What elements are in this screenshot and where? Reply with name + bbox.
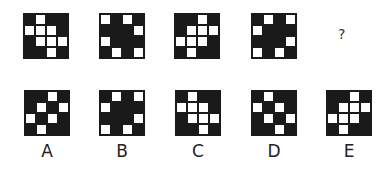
black-cell <box>274 113 285 124</box>
white-cell <box>133 25 144 36</box>
black-cell <box>133 102 144 113</box>
white-cell <box>187 113 198 124</box>
white-cell <box>58 102 69 113</box>
option-c-label: C <box>175 141 221 161</box>
black-cell <box>175 14 186 25</box>
black-cell <box>274 14 285 25</box>
white-cell <box>100 36 111 47</box>
black-cell <box>187 124 198 135</box>
black-cell <box>175 47 186 58</box>
white-cell <box>338 113 349 124</box>
white-cell <box>122 14 133 25</box>
black-cell <box>327 102 338 113</box>
white-cell <box>197 14 208 25</box>
black-cell <box>209 124 220 135</box>
white-cell <box>133 113 144 124</box>
black-cell <box>100 91 111 102</box>
black-cell <box>25 102 36 113</box>
black-cell <box>197 47 208 58</box>
black-cell <box>176 91 187 102</box>
black-cell <box>111 113 122 124</box>
black-cell <box>360 91 371 102</box>
white-cell <box>24 25 35 36</box>
black-cell <box>25 124 36 135</box>
white-cell <box>285 14 296 25</box>
black-cell <box>122 47 133 58</box>
sequence-pattern-4 <box>251 13 297 59</box>
black-cell <box>111 36 122 47</box>
white-cell <box>133 47 144 58</box>
black-cell <box>133 14 144 25</box>
white-cell <box>100 124 111 135</box>
white-cell <box>252 47 263 58</box>
black-cell <box>35 47 46 58</box>
black-cell <box>122 36 133 47</box>
white-cell <box>176 102 187 113</box>
black-cell <box>176 124 187 135</box>
black-cell <box>58 124 69 135</box>
black-cell <box>209 91 220 102</box>
white-cell <box>198 124 209 135</box>
white-cell <box>111 91 122 102</box>
black-cell <box>176 113 187 124</box>
black-cell <box>111 124 122 135</box>
black-cell <box>263 36 274 47</box>
white-cell <box>327 113 338 124</box>
black-cell <box>263 47 274 58</box>
black-cell <box>47 102 58 113</box>
black-cell <box>100 113 111 124</box>
option-e-label: E <box>326 141 372 161</box>
black-cell <box>122 113 133 124</box>
white-cell <box>263 14 274 25</box>
white-cell <box>198 113 209 124</box>
black-cell <box>100 47 111 58</box>
black-cell <box>252 124 263 135</box>
black-cell <box>208 47 219 58</box>
white-cell <box>35 14 46 25</box>
black-cell <box>285 47 296 58</box>
black-cell <box>274 91 285 102</box>
white-cell <box>274 124 285 135</box>
white-cell <box>100 102 111 113</box>
option-a-pattern[interactable] <box>24 90 70 136</box>
black-cell <box>285 124 296 135</box>
white-cell <box>252 25 263 36</box>
white-cell <box>274 102 285 113</box>
black-cell <box>25 91 36 102</box>
black-cell <box>58 113 69 124</box>
black-cell <box>263 102 274 113</box>
black-cell <box>209 102 220 113</box>
white-cell <box>111 47 122 58</box>
white-cell <box>46 25 57 36</box>
option-d-label: D <box>251 141 297 161</box>
black-cell <box>122 91 133 102</box>
black-cell <box>327 124 338 135</box>
black-cell <box>208 14 219 25</box>
white-cell <box>47 91 58 102</box>
option-b-pattern[interactable] <box>99 90 145 136</box>
black-cell <box>263 124 274 135</box>
black-cell <box>285 91 296 102</box>
black-cell <box>252 36 263 47</box>
white-cell <box>187 91 198 102</box>
option-d-pattern[interactable] <box>251 90 297 136</box>
black-cell <box>36 113 47 124</box>
white-cell <box>187 102 198 113</box>
black-cell <box>133 124 144 135</box>
black-cell <box>360 113 371 124</box>
white-cell <box>198 102 209 113</box>
black-cell <box>57 25 68 36</box>
black-cell <box>111 25 122 36</box>
black-cell <box>360 124 371 135</box>
black-cell <box>24 47 35 58</box>
option-a-label: A <box>24 141 70 161</box>
white-cell <box>338 124 349 135</box>
black-cell <box>57 14 68 25</box>
white-cell <box>338 102 349 113</box>
option-c-pattern[interactable] <box>175 90 221 136</box>
option-e-pattern[interactable] <box>326 90 372 136</box>
white-cell <box>186 36 197 47</box>
white-cell <box>133 91 144 102</box>
white-cell <box>36 102 47 113</box>
white-cell <box>252 102 263 113</box>
